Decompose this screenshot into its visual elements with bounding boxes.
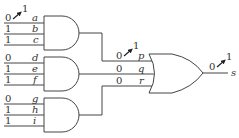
input-c-value: 1 [5,34,11,45]
input-q-value: 0 [116,63,122,74]
input-d-value: 0 [5,52,11,63]
input-f-value: 1 [5,74,11,85]
input-q-label: q [138,63,144,74]
output-s-value: 0 [209,61,215,72]
and-gate-1: 0 1 a 1 b 1 c [4,3,79,50]
or-input-labels: 0 1 p 0 q 0 r [116,40,145,86]
and-gate-2-body [44,57,79,91]
input-h-value: 1 [5,104,11,115]
input-p-label: p [138,50,145,61]
and-gate-2: 0 d 1 e 1 f [4,52,79,91]
and-gate-3-body [44,98,79,132]
change-arrow-icon [124,50,131,56]
input-g-value: 0 [5,93,11,104]
input-b-label: b [32,23,38,34]
input-r-value: 0 [116,75,122,86]
input-a-new-value: 1 [22,3,28,14]
and-gate-1-body [44,16,79,50]
input-e-label: e [32,63,38,74]
logic-circuit-diagram: 0 1 a 1 b 1 c 0 d 1 e 1 f 0 g 1 h 1 i [0,0,239,138]
input-c-label: c [33,34,39,45]
input-i-label: i [33,115,36,126]
input-i-value: 1 [5,115,11,126]
input-b-value: 1 [5,23,11,34]
input-h-label: h [32,104,38,115]
or-gate: 0 1 s [149,51,236,93]
input-g-label: g [32,93,38,104]
input-r-label: r [139,75,145,86]
output-s-label: s [231,67,236,78]
and-gate-3: 0 g 1 h 1 i [4,93,79,132]
input-a-value: 0 [5,12,11,23]
input-f-label: f [32,74,39,85]
or-gate-body [149,54,203,93]
connecting-wires [79,33,154,115]
change-arrow-icon [217,61,224,67]
input-d-label: d [32,52,38,63]
wire-r [79,86,153,115]
change-arrow-icon [13,13,20,19]
input-p-value: 0 [116,50,122,61]
input-e-value: 1 [5,63,11,74]
input-a-label: a [32,12,38,23]
output-s-new-value: 1 [226,51,232,62]
